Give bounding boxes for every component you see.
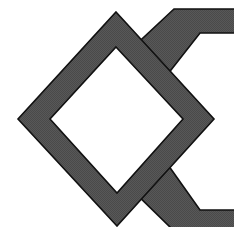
diagram-canvas xyxy=(0,0,234,227)
